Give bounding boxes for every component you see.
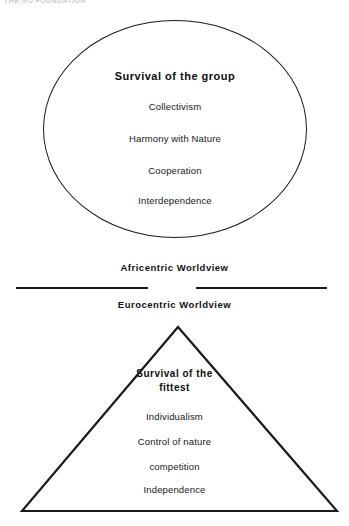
africentric-item-cooperation: Cooperation [43, 165, 307, 176]
eurocentric-title: Survival of the fittest [0, 367, 349, 395]
africentric-item-collectivism: Collectivism [43, 101, 307, 112]
diagram-canvas: THE GO FOUNDATION Survival of the group … [0, 0, 349, 526]
eurocentric-item-competition: competition [0, 461, 349, 472]
africentric-item-harmony-with-nature: Harmony with Nature [43, 133, 307, 144]
eurocentric-item-independence: Independence [0, 484, 349, 495]
eurocentric-title-line1: Survival of the [0, 367, 349, 381]
eurocentric-item-control-of-nature: Control of nature [0, 436, 349, 447]
africentric-title: Survival of the group [43, 70, 307, 82]
eurocentric-worldview-label: Eurocentric Worldview [0, 299, 349, 310]
eurocentric-title-line2: fittest [0, 381, 349, 395]
eurocentric-item-individualism: Individualism [0, 411, 349, 422]
africentric-item-interdependence: Interdependence [43, 195, 307, 206]
divider-segment-right [196, 287, 327, 289]
page-header-fragment: THE GO FOUNDATION [4, 0, 174, 5]
africentric-worldview-label: Africentric Worldview [0, 262, 349, 273]
divider-segment-left [16, 287, 148, 289]
worldview-divider [0, 287, 349, 290]
